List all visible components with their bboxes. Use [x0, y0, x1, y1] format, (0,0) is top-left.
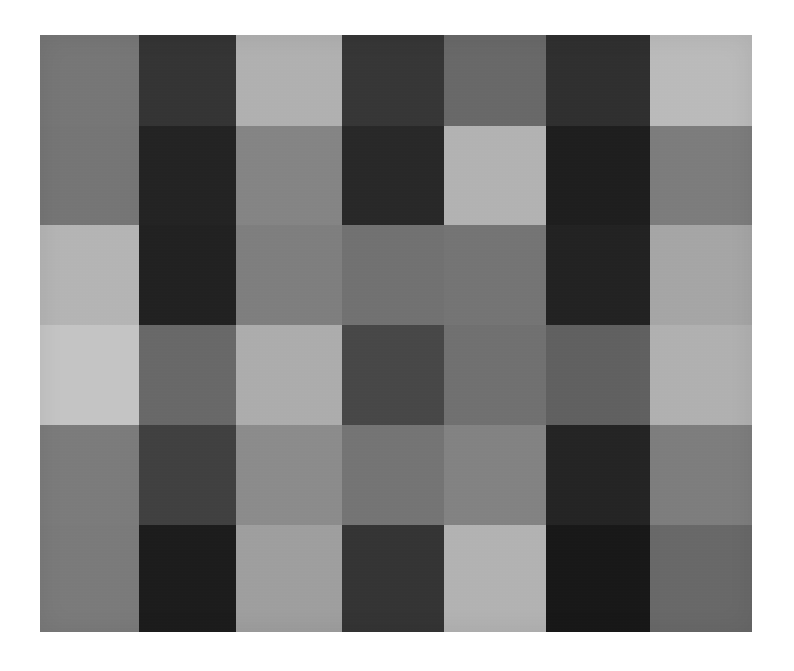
image-canvas: [0, 0, 794, 671]
grid-cell-r2-c5: [444, 126, 546, 225]
grid-cell-r3-c1: [40, 225, 139, 325]
grid-cell-r6-c5: [444, 525, 546, 632]
grid-cell-r2-c3: [236, 126, 342, 225]
grid-cell-r1-c4: [342, 35, 444, 126]
grid-cell-r4-c5: [444, 325, 546, 425]
grid-cell-r4-c2: [139, 325, 236, 425]
grid-cell-r3-c2: [139, 225, 236, 325]
grid-cell-r1-c5: [444, 35, 546, 126]
grid-cell-r6-c3: [236, 525, 342, 632]
grid-cell-r6-c4: [342, 525, 444, 632]
grid-cell-r2-c7: [650, 126, 752, 225]
grid-cell-r3-c7: [650, 225, 752, 325]
grid-cell-r3-c5: [444, 225, 546, 325]
grid-cell-r1-c6: [546, 35, 650, 126]
grid-cell-r2-c1: [40, 126, 139, 225]
grid-cell-r2-c2: [139, 126, 236, 225]
grid-cell-r6-c7: [650, 525, 752, 632]
grid-cell-r3-c3: [236, 225, 342, 325]
grid-cell-r5-c6: [546, 425, 650, 525]
grid-cell-r4-c3: [236, 325, 342, 425]
grid-cell-r1-c7: [650, 35, 752, 126]
grid-cell-r2-c6: [546, 126, 650, 225]
grid-cell-r4-c7: [650, 325, 752, 425]
grid-cell-r6-c1: [40, 525, 139, 632]
grid-cell-r5-c5: [444, 425, 546, 525]
grid-cell-r3-c6: [546, 225, 650, 325]
grid-cell-r3-c4: [342, 225, 444, 325]
grid-cell-r1-c2: [139, 35, 236, 126]
grid-cell-r4-c4: [342, 325, 444, 425]
grid-cell-r1-c3: [236, 35, 342, 126]
grid-cell-r2-c4: [342, 126, 444, 225]
color-grid-panel: [40, 35, 752, 632]
grid-cell-r6-c2: [139, 525, 236, 632]
grid-cell-r5-c7: [650, 425, 752, 525]
grid-cell-r5-c3: [236, 425, 342, 525]
grid-cell-r5-c1: [40, 425, 139, 525]
grid-cell-r1-c1: [40, 35, 139, 126]
grid-cell-r4-c1: [40, 325, 139, 425]
grid-cell-r4-c6: [546, 325, 650, 425]
grid-cell-r5-c2: [139, 425, 236, 525]
grid-cell-r6-c6: [546, 525, 650, 632]
grid-cell-r5-c4: [342, 425, 444, 525]
